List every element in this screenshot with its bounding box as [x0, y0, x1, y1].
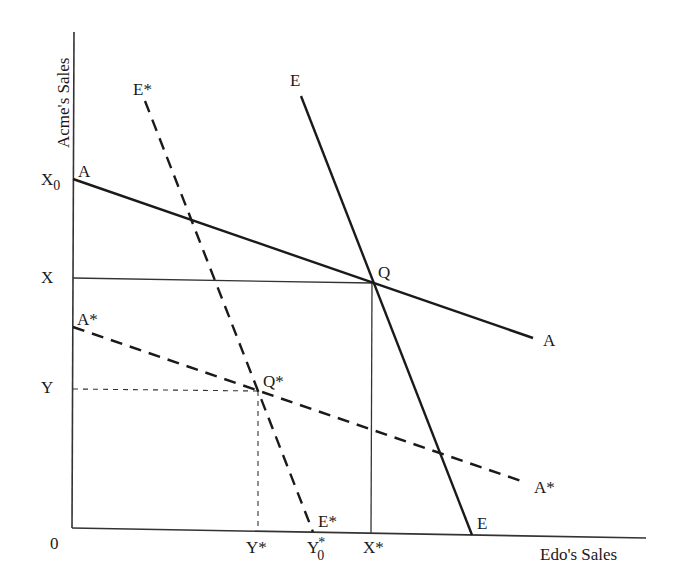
label-e-end: E: [477, 514, 487, 533]
label-a-star-start: A*: [77, 310, 98, 329]
label-e-start: E: [290, 71, 300, 90]
label-a-star-end: A*: [534, 478, 555, 497]
x-star-guide-vertical: [371, 283, 372, 533]
curve-e-star: [145, 101, 313, 532]
point-q-star: Q*: [263, 372, 284, 391]
x-axis-title: Edo's Sales: [540, 545, 617, 564]
tick-x0-subscript: 0: [53, 178, 60, 193]
tick-x0: X0: [41, 170, 60, 193]
curve-e: [301, 96, 472, 535]
label-a-start: A: [78, 162, 91, 181]
tick-x: X: [41, 268, 53, 287]
y-axis-title: Acme's Sales: [54, 58, 73, 148]
curve-a: [73, 179, 533, 338]
tick-x-star: X*: [363, 538, 384, 557]
tick-y0-star-subscript: 0: [317, 548, 324, 563]
label-e-star-end: E*: [318, 512, 337, 531]
x-guide-horizontal: [73, 278, 372, 283]
tick-y: Y: [41, 378, 53, 397]
y-guide-horizontal: [73, 389, 258, 391]
point-q: Q: [378, 263, 390, 282]
curve-a-star: [73, 327, 524, 482]
x-axis: [72, 528, 646, 538]
label-a-end: A: [543, 331, 556, 350]
tick-y0-star: Y*0: [307, 535, 325, 563]
origin-label: 0: [50, 534, 59, 553]
cournot-reaction-diagram: Acme's Sales Edo's Sales 0 A A E E A* A*…: [0, 0, 678, 588]
label-e-star-start: E*: [133, 80, 152, 99]
tick-y-star: Y*: [246, 538, 267, 557]
